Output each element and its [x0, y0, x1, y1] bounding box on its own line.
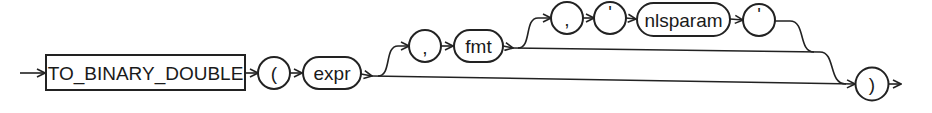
- comma-1-label: ,: [422, 37, 427, 58]
- connector-arrow: [361, 74, 372, 76]
- keyword-label: TO_BINARY_DOUBLE: [48, 63, 244, 85]
- fmt-label: fmt: [465, 36, 492, 57]
- connector-arrow: [626, 18, 636, 19]
- fmt-nonterminal: fmt: [454, 30, 503, 62]
- open-paren-terminal: (: [258, 57, 290, 89]
- expr-nonterminal: expr: [303, 57, 361, 89]
- close-paren-label: ): [869, 74, 875, 95]
- connector-arrow: [730, 19, 743, 20]
- nlsparam-nonterminal: nlsparam: [637, 3, 730, 36]
- quote-open-label: ': [608, 2, 612, 23]
- syntax-diagram: TO_BINARY_DOUBLE ( expr , fmt ,: [0, 0, 932, 113]
- quote-close-terminal: ': [743, 4, 775, 36]
- branch-up-fmt: [378, 46, 409, 76]
- nlsparam-label: nlsparam: [644, 10, 722, 31]
- nlsparam-return-line: [775, 21, 814, 52]
- comma-2-label: ,: [564, 9, 569, 30]
- comma-terminal-1: ,: [409, 30, 441, 62]
- close-paren-terminal: ): [856, 68, 889, 101]
- main-bypass-line: [372, 76, 855, 84]
- expr-label: expr: [314, 63, 352, 84]
- quote-close-label: ': [757, 4, 761, 25]
- comma-terminal-2: ,: [551, 2, 583, 34]
- connector-arrow: [503, 46, 513, 48]
- keyword-box-to-binary-double: TO_BINARY_DOUBLE: [46, 55, 245, 90]
- quote-open-terminal: ': [594, 2, 626, 34]
- branch-up-nlsparam: [518, 18, 551, 48]
- open-paren-label: (: [271, 63, 278, 84]
